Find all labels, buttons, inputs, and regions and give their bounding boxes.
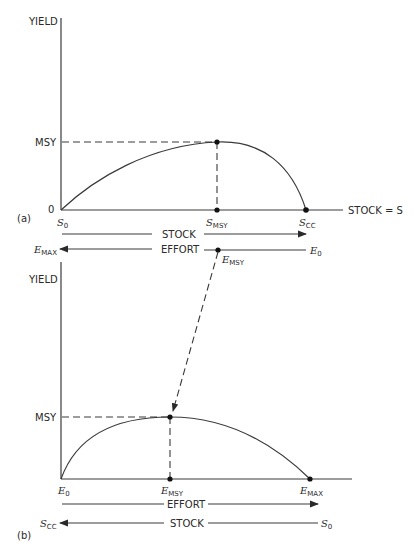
panel-a-stock-arrow-label: STOCK [162,229,196,240]
panel-b-tick-emax: EMAX [299,485,323,498]
panel-a-tick-scc: SCC [299,217,316,230]
panel-a-yield-curve [61,142,306,210]
panel-b-msy-label: MSY [35,412,57,423]
panel-a-msy-label: MSY [35,137,57,148]
panel-b-emax-point [307,476,312,481]
panel-b-effort-arrow-label: EFFORT [167,499,206,510]
panel-a-emsy-label: EMSY [221,254,245,267]
panel-a-zero-label: 0 [48,204,54,215]
panel-a-emsy-point [215,247,220,252]
panel-b-yield-curve [61,417,310,479]
panel-a-smsy-point [214,207,219,212]
panel-b-peak-point [167,414,172,419]
panel-b-tick-emsy: EMSY [160,485,184,498]
emsy-mapping-arrow [173,252,218,411]
panel-a: YIELD MSY 0 (a) STOCK = S S0 SMSY SCC ST… [17,16,403,267]
panel-a-tick-smsy: SMSY [206,217,228,230]
yield-effort-diagram: YIELD MSY 0 (a) STOCK = S S0 SMSY SCC ST… [0,0,417,554]
panel-a-peak-point [214,139,219,144]
panel-a-scc-point [303,207,309,213]
panel-b-emsy-point [167,476,172,481]
panel-a-effort-arrow-label: EFFORT [161,244,200,255]
panel-b-stock-right-label: S0 [321,518,332,531]
panel-a-y-axis-label: YIELD [28,16,58,27]
panel-a-x-axis-label: STOCK = S [348,205,403,216]
panel-a-tick-s0: S0 [57,217,68,230]
panel-b-tag: (b) [17,530,31,541]
panel-b-stock-arrow-label: STOCK [170,518,204,529]
panel-a-tag: (a) [17,213,31,224]
panel-b-stock-left-label: SCC [40,518,57,531]
panel-b-y-axis-label: YIELD [28,274,58,285]
panel-b: YIELD MSY E0 EMSY EMAX EFFORT SCC STOCK … [17,262,352,541]
panel-a-effort-right-label: E0 [309,245,322,258]
panel-a-effort-left-label: EMAX [33,244,57,257]
panel-b-tick-e0: E0 [57,485,70,498]
